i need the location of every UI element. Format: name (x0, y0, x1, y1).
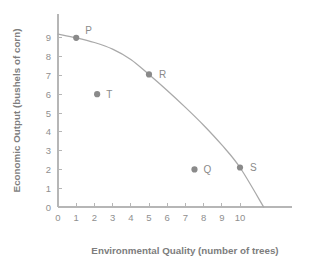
y-tick-label: 8 (46, 51, 51, 62)
data-point-p (73, 35, 79, 41)
axes-group (58, 14, 292, 207)
data-point-label-p: P (85, 25, 92, 36)
x-tick-label: 4 (128, 212, 133, 223)
data-point-t (94, 91, 100, 97)
x-tick-label: 10 (235, 212, 246, 223)
y-tick-label: 4 (46, 126, 51, 137)
tick-marks-group (58, 38, 240, 207)
y-tick-label: 1 (46, 183, 51, 194)
data-point-label-t: T (106, 89, 112, 100)
y-axis-title: Economic Output (bushels of corn) (11, 29, 22, 193)
data-point-label-s: S (250, 162, 257, 173)
ppf-frontier-curve (58, 34, 264, 207)
x-tick-label: 6 (165, 212, 170, 223)
x-tick-label: 9 (219, 212, 224, 223)
x-tick-label: 7 (183, 212, 188, 223)
x-tick-label: 3 (110, 212, 115, 223)
ppf-plot: PTRQS 0123456789100123456789 Environment… (0, 0, 312, 267)
y-tick-label: 6 (46, 89, 51, 100)
data-point-q (191, 166, 197, 172)
y-tick-label: 0 (46, 202, 51, 213)
x-tick-label: 0 (55, 212, 60, 223)
y-tick-label: 3 (46, 145, 51, 156)
x-tick-label: 1 (74, 212, 79, 223)
y-tick-label: 5 (46, 108, 51, 119)
ppf-curve-group (58, 34, 264, 207)
x-tick-label: 2 (92, 212, 97, 223)
y-tick-label: 9 (46, 32, 51, 43)
chart-container: PTRQS 0123456789100123456789 Environment… (0, 0, 312, 267)
data-point-s (237, 164, 243, 170)
x-tick-label: 8 (201, 212, 206, 223)
data-point-r (146, 71, 152, 77)
data-point-label-q: Q (204, 164, 212, 175)
data-point-label-r: R (159, 69, 166, 80)
y-tick-label: 2 (46, 164, 51, 175)
x-tick-label: 5 (146, 212, 151, 223)
tick-labels-group: 0123456789100123456789 (46, 32, 246, 223)
y-tick-label: 7 (46, 70, 51, 81)
x-axis-title: Environmental Quality (number of trees) (91, 245, 278, 256)
